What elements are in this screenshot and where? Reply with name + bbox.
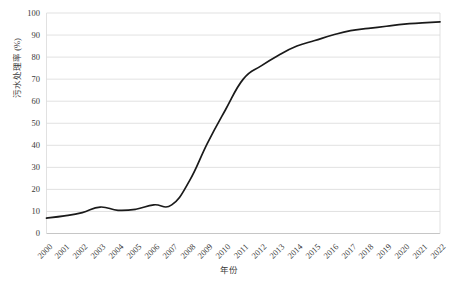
data-line-series-0 [47, 22, 441, 218]
chart-container: 污水处理率 (%) 年份 0102030405060708090100 2000… [0, 0, 457, 287]
plot-area [0, 0, 457, 287]
gridlines-group [47, 13, 441, 234]
